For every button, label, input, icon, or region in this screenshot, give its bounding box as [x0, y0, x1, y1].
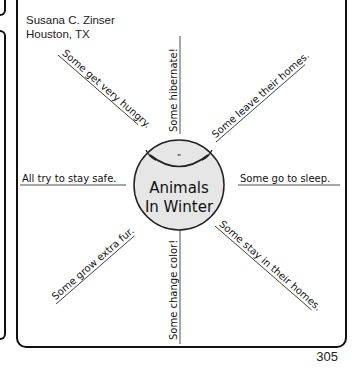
- svg-text:Some get very hungry.: Some get very hungry.: [60, 47, 153, 130]
- word-web-diagram: " Animals In Winter Some hibernate! Some…: [0, 0, 356, 377]
- spoke-top-left: Some get very hungry.: [58, 46, 153, 131]
- svg-text:Some hibernate!: Some hibernate!: [168, 48, 179, 132]
- svg-text:All try to stay safe.: All try to stay safe.: [22, 173, 116, 184]
- svg-text:Some go to sleep.: Some go to sleep.: [240, 173, 330, 184]
- spoke-top: Some hibernate!: [168, 36, 180, 134]
- spoke-bottom-left: Some grow extra fur.: [48, 225, 136, 304]
- svg-text:Some change color!: Some change color!: [168, 240, 179, 340]
- page-number: 305: [316, 349, 338, 364]
- svg-text:Some grow extra fur.: Some grow extra fur.: [50, 225, 136, 302]
- svg-text:": ": [177, 152, 180, 162]
- spoke-bottom: Some change color!: [168, 230, 180, 344]
- center-title-line2: In Winter: [145, 198, 214, 216]
- spoke-bottom-right: Some stay in their homes.: [215, 217, 324, 314]
- center-title-line1: Animals: [149, 179, 209, 197]
- svg-text:Some stay in their homes.: Some stay in their homes.: [217, 218, 323, 313]
- spoke-left: All try to stay safe.: [20, 173, 126, 185]
- svg-text:Some leave their homes.: Some leave their homes.: [210, 50, 312, 140]
- spoke-top-right: Some leave their homes.: [208, 50, 312, 142]
- spoke-right: Some go to sleep.: [238, 173, 340, 185]
